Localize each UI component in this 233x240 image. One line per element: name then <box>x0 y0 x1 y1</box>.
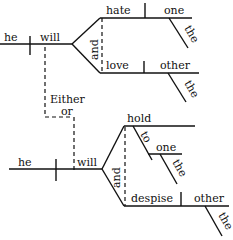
connector-or: or <box>61 105 74 118</box>
subject-word: he <box>4 31 18 44</box>
object-word: other <box>194 192 225 205</box>
verb-word: love <box>106 59 129 72</box>
object-word: one <box>164 4 184 17</box>
modifier-word: the <box>181 78 201 100</box>
subject-word: he <box>18 156 32 169</box>
conjunction-word: and <box>110 167 123 188</box>
sentence-diagram: he will and hate one the love other the … <box>0 0 233 240</box>
verb-word: will <box>77 156 97 169</box>
verb-word: despise <box>131 192 173 205</box>
verb-word: hold <box>127 112 151 125</box>
object-word: one <box>156 141 176 154</box>
conjunction-word: and <box>88 39 101 60</box>
verb-word: hate <box>106 4 131 17</box>
verb-word: will <box>40 31 60 44</box>
correlative-connector: Either or <box>45 47 86 170</box>
preposition-word: to <box>137 129 154 145</box>
clause-1: he will and hate one the love other the <box>0 3 202 102</box>
object-word: other <box>160 59 191 72</box>
clause-2: he will and hold to one the despise othe… <box>9 112 233 236</box>
